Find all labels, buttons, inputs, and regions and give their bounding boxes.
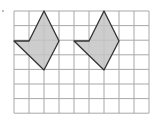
grid-lines	[14, 11, 149, 113]
grid-diagram	[0, 0, 154, 116]
dot-mark	[2, 10, 4, 12]
shape-2	[74, 11, 119, 70]
shape-1	[14, 11, 59, 70]
